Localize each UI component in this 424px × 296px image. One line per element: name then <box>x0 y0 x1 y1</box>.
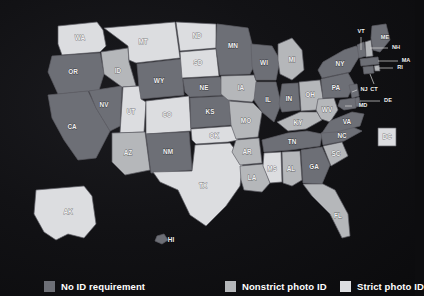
label-WV: WV <box>322 106 333 113</box>
label-IN: IN <box>286 95 293 102</box>
legend-item-0[interactable]: No ID requirement <box>44 281 145 292</box>
label-NY: NY <box>336 60 346 67</box>
label-RI: RI <box>397 64 403 70</box>
label-VT: VT <box>357 28 365 34</box>
state-FL[interactable] <box>303 184 350 238</box>
label-NM: NM <box>163 148 173 155</box>
label-MD: MD <box>359 102 368 108</box>
label-SC: SC <box>332 150 341 157</box>
label-NE: NE <box>200 84 210 91</box>
label-ID: ID <box>115 67 122 74</box>
label-MS: MS <box>267 165 277 172</box>
label-FL: FL <box>334 212 342 219</box>
legend-item-2[interactable]: Strict photo ID <box>340 281 424 292</box>
label-MA: MA <box>402 57 411 63</box>
legend-swatch-nonstrict <box>225 281 236 292</box>
state-VT[interactable] <box>357 42 366 58</box>
label-AK: AK <box>63 208 73 215</box>
label-GA: GA <box>309 163 319 170</box>
state-MD[interactable] <box>338 98 356 110</box>
state-MN[interactable] <box>216 24 256 75</box>
label-MI: MI <box>288 56 295 63</box>
label-WY: WY <box>154 77 165 84</box>
map-legend: No ID requirement Nonstrict photo ID Str… <box>0 274 415 294</box>
label-ME: ME <box>381 34 390 40</box>
label-OH: OH <box>305 91 315 98</box>
legend-label-no-id: No ID requirement <box>61 281 145 292</box>
state-MA[interactable] <box>360 57 379 66</box>
label-TN: TN <box>288 138 297 145</box>
label-NH: NH <box>392 44 400 50</box>
state-CT[interactable] <box>363 66 374 74</box>
legend-label-nonstrict: Nonstrict photo ID <box>242 281 327 292</box>
label-KS: KS <box>206 108 216 115</box>
label-PA: PA <box>332 84 341 91</box>
label-AL: AL <box>287 165 296 172</box>
label-SD: SD <box>194 59 203 66</box>
label-AR: AR <box>242 148 252 155</box>
label-ND: ND <box>192 32 202 39</box>
legend-swatch-strict <box>340 281 351 292</box>
label-CO: CO <box>162 111 172 118</box>
label-MT: MT <box>138 38 147 45</box>
legend-label-strict: Strict photo ID <box>357 281 424 292</box>
legend-item-1[interactable]: Nonstrict photo ID <box>225 281 327 292</box>
label-CA: CA <box>67 123 77 130</box>
label-NC: NC <box>337 132 347 139</box>
label-IA: IA <box>238 84 245 91</box>
label-NJ: NJ <box>360 86 367 92</box>
label-HI: HI <box>168 236 175 243</box>
label-VA: VA <box>343 118 352 125</box>
label-TX: TX <box>199 182 208 189</box>
label-OR: OR <box>68 68 78 75</box>
label-DE: DE <box>384 97 392 103</box>
label-MN: MN <box>228 42 238 49</box>
label-KY: KY <box>294 119 304 126</box>
label-MO: MO <box>241 117 251 124</box>
leader-CT <box>370 74 374 84</box>
label-NV: NV <box>100 101 110 108</box>
label-DC: DC <box>382 133 392 140</box>
state-HI[interactable] <box>155 234 168 244</box>
label-UT: UT <box>127 108 136 115</box>
legend-swatch-no-id <box>44 281 55 292</box>
label-OK: OK <box>209 132 219 139</box>
label-IL: IL <box>265 96 271 103</box>
label-AZ: AZ <box>124 149 133 156</box>
label-LA: LA <box>248 174 257 181</box>
label-WI: WI <box>260 59 268 66</box>
label-WA: WA <box>75 34 86 41</box>
label-CT: CT <box>370 86 378 92</box>
us-map-svg: WA OR CA NV ID MT WY UT AZ CO NM ND SD N… <box>0 0 415 272</box>
